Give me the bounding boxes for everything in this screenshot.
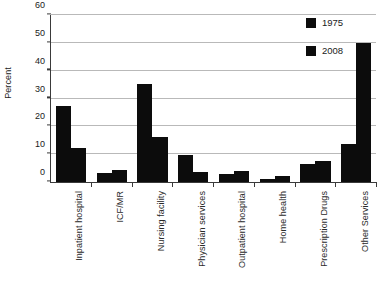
y-tick-label: 50 bbox=[15, 28, 45, 38]
x-axis-label: Other Services bbox=[360, 191, 370, 252]
y-tick-label: 20 bbox=[15, 111, 45, 121]
x-tick-mark bbox=[335, 182, 336, 187]
bar-1975 bbox=[219, 174, 234, 182]
x-tick-mark bbox=[376, 182, 377, 187]
bar-1975 bbox=[178, 155, 193, 182]
bar-group bbox=[296, 15, 337, 182]
bar-2008 bbox=[193, 172, 208, 182]
x-axis-label: Inpatient hospital bbox=[74, 191, 84, 261]
bar-1975 bbox=[97, 173, 112, 182]
bar-group bbox=[92, 15, 133, 182]
bar-1975 bbox=[137, 84, 152, 182]
bar-group bbox=[51, 15, 92, 182]
x-axis-label: ICF/MR bbox=[115, 191, 125, 223]
bar-group bbox=[173, 15, 214, 182]
x-axis-label: Outpatient hospital bbox=[237, 191, 247, 268]
legend-item-1975: 1975 bbox=[306, 17, 343, 28]
x-axis-label: Nursing facility bbox=[156, 191, 166, 251]
legend-swatch-icon bbox=[306, 46, 316, 56]
x-axis-label: Home health bbox=[278, 191, 288, 243]
y-tick-label: 10 bbox=[15, 139, 45, 149]
x-tick-mark bbox=[213, 182, 214, 187]
bar-group bbox=[255, 15, 296, 182]
y-tick-label: 30 bbox=[15, 84, 45, 94]
bar-2008 bbox=[275, 176, 290, 182]
bar-chart: Percent 0102030405060 Inpatient hospital… bbox=[0, 0, 391, 283]
bar-group bbox=[133, 15, 174, 182]
y-tick-label: 40 bbox=[15, 56, 45, 66]
bar-2008 bbox=[112, 170, 127, 182]
bar-2008 bbox=[234, 171, 249, 182]
bar-1975 bbox=[56, 106, 71, 182]
y-tick-label: 0 bbox=[15, 167, 45, 177]
legend-item-2008: 2008 bbox=[306, 45, 343, 56]
bar-1975 bbox=[260, 179, 275, 182]
plot-area: 0102030405060 bbox=[50, 15, 376, 183]
x-axis-label: Physician services bbox=[197, 191, 207, 267]
bar-2008 bbox=[356, 43, 371, 182]
bar-1975 bbox=[300, 164, 315, 182]
bar-2008 bbox=[71, 148, 86, 182]
bar-group bbox=[214, 15, 255, 182]
bar-2008 bbox=[152, 137, 167, 182]
x-tick-mark bbox=[295, 182, 296, 187]
x-tick-mark bbox=[254, 182, 255, 187]
x-tick-mark bbox=[132, 182, 133, 187]
legend-label: 1975 bbox=[322, 17, 343, 28]
x-tick-mark bbox=[172, 182, 173, 187]
y-tick-label: 60 bbox=[15, 0, 45, 10]
x-tick-mark bbox=[91, 182, 92, 187]
bar-2008 bbox=[315, 161, 330, 182]
x-axis-label: Prescription Drugs bbox=[319, 191, 329, 267]
bar-group bbox=[336, 15, 377, 182]
legend-label: 2008 bbox=[322, 45, 343, 56]
legend-swatch-icon bbox=[306, 18, 316, 28]
y-axis-title: Percent bbox=[3, 53, 13, 113]
bar-1975 bbox=[341, 144, 356, 182]
